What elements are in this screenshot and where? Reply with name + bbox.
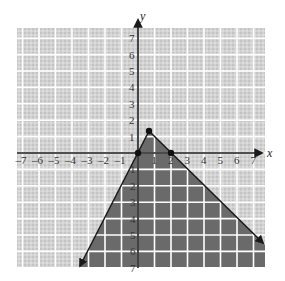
x-tick-label: –3 [81,154,94,166]
point-origin [135,150,141,156]
y-tick-label: 2 [129,114,135,126]
x-tick-label: –1 [114,154,126,166]
y-tick-label: 5 [130,229,136,241]
y-tick-label: 1 [129,131,135,143]
y-tick-label: 7 [129,32,135,44]
x-tick-label: 4 [201,154,207,166]
x-tick-label: 5 [218,154,224,166]
x-tick-label: 6 [234,154,240,166]
x-tick-label: –4 [64,154,77,166]
y-axis-label: y [139,9,146,23]
y-tick-label: 3 [130,196,136,208]
y-tick-label: 6 [130,245,136,257]
y-tick-label: 4 [129,81,135,93]
x-axis-label: x [266,146,273,160]
coordinate-graph: x y –7–6–5–4–3–2–11234567 76543211234567 [0,0,285,281]
x-tick-label: 7 [251,154,257,166]
y-tick-label: 2 [130,180,136,192]
y-tick-label: 3 [129,98,135,110]
y-tick-label: 4 [130,213,136,225]
x-tick-label: –7 [15,154,28,166]
y-tick-label: 6 [129,49,135,61]
point-x-intercept-2 [168,150,174,156]
x-tick-label: 1 [152,154,158,166]
y-tick-label: 7 [130,262,136,274]
x-tick-label: –6 [31,154,44,166]
x-tick-label: 3 [185,154,191,166]
y-tick-label: 5 [129,65,135,77]
x-tick-label: –5 [48,154,61,166]
x-tick-label: –2 [97,154,109,166]
point-vertex [146,128,152,134]
